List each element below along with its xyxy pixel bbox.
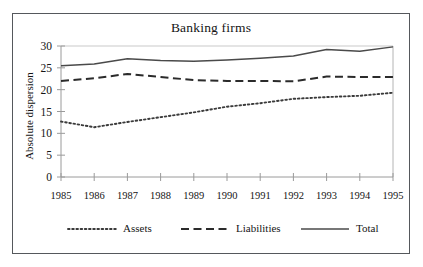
series-line-liabilities bbox=[61, 74, 393, 81]
x-tick-label: 1986 bbox=[84, 190, 105, 201]
x-tick-label: 1988 bbox=[150, 190, 171, 201]
y-tick-label: 15 bbox=[41, 106, 53, 118]
x-tick-label: 1990 bbox=[217, 190, 238, 201]
legend-label-assets: Assets bbox=[123, 222, 152, 234]
y-tick-label: 5 bbox=[46, 149, 52, 161]
x-tick-label: 1991 bbox=[250, 190, 271, 201]
x-tick-label: 1993 bbox=[316, 190, 337, 201]
y-tick-label: 25 bbox=[41, 62, 53, 74]
legend-label-liabilities: Liabilities bbox=[236, 222, 281, 234]
x-tick-label: 1992 bbox=[283, 190, 304, 201]
chart-frame: Banking firms Absolute dispersion 051015… bbox=[12, 13, 410, 254]
x-tick-label: 1995 bbox=[383, 190, 404, 201]
y-tick-label: 20 bbox=[41, 84, 53, 96]
y-tick-label: 0 bbox=[46, 171, 52, 183]
x-tick-label: 1989 bbox=[183, 190, 204, 201]
x-tick-label: 1994 bbox=[349, 190, 371, 201]
figure-root: Banking firms Absolute dispersion 051015… bbox=[0, 0, 423, 267]
series-line-total bbox=[61, 47, 393, 66]
legend-label-total: Total bbox=[356, 222, 378, 234]
plot-area: 0510152025301985198619871988198919901991… bbox=[13, 14, 411, 255]
y-tick-label: 10 bbox=[41, 127, 53, 139]
y-tick-label: 30 bbox=[41, 40, 53, 52]
series-line-assets bbox=[61, 93, 393, 127]
x-tick-label: 1987 bbox=[117, 190, 138, 201]
x-tick-label: 1985 bbox=[51, 190, 72, 201]
